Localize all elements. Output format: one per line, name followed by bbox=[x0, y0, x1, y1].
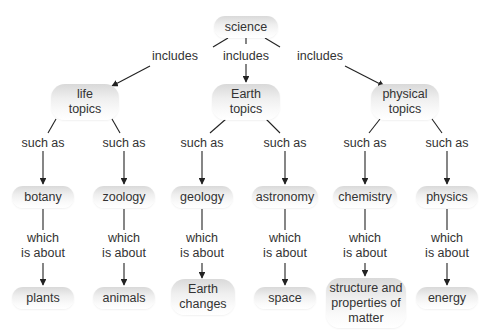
connector-line bbox=[213, 38, 228, 47]
concept-node-physics[interactable]: physics bbox=[416, 186, 478, 208]
link-label-life-to-botany: such as bbox=[20, 136, 65, 151]
connector-line bbox=[345, 66, 384, 86]
concept-node-science[interactable]: science bbox=[214, 16, 278, 38]
concept-node-botany[interactable]: botany bbox=[12, 186, 74, 208]
link-label-zoology-to-animals: which is about bbox=[101, 231, 147, 261]
connector-line bbox=[48, 119, 56, 133]
link-label-earth-to-geology: such as bbox=[179, 136, 224, 151]
link-label-geology-to-earth-changes: which is about bbox=[179, 231, 225, 261]
link-label-earth-to-astronomy: such as bbox=[262, 136, 307, 151]
concept-node-plants[interactable]: plants bbox=[12, 287, 74, 309]
concept-node-earth[interactable]: Earth topics bbox=[212, 84, 280, 120]
link-label-physical-to-chemistry: such as bbox=[342, 136, 387, 151]
concept-node-animals[interactable]: animals bbox=[93, 287, 155, 309]
concept-node-zoology[interactable]: zoology bbox=[93, 186, 155, 208]
connector-line bbox=[112, 119, 120, 133]
link-label-astronomy-to-space: which is about bbox=[262, 231, 308, 261]
link-label-science-to-physical: includes bbox=[296, 49, 344, 64]
link-label-botany-to-plants: which is about bbox=[20, 231, 66, 261]
connector-line bbox=[266, 119, 280, 133]
connector-line bbox=[369, 119, 380, 133]
link-label-chemistry-to-matter: which is about bbox=[342, 231, 388, 261]
concept-node-life[interactable]: life topics bbox=[51, 84, 119, 120]
connector-line bbox=[432, 119, 442, 133]
concept-node-earth-changes[interactable]: Earth changes bbox=[171, 279, 235, 315]
link-label-physical-to-physics: such as bbox=[424, 136, 469, 151]
link-label-physics-to-energy: which is about bbox=[424, 231, 470, 261]
connector-line bbox=[210, 119, 226, 133]
concept-node-physical[interactable]: physical topics bbox=[371, 84, 439, 120]
concept-node-geology[interactable]: geology bbox=[171, 186, 233, 208]
connector-line bbox=[265, 38, 280, 47]
link-label-science-to-earth: includes bbox=[222, 49, 270, 64]
link-label-science-to-life: includes bbox=[151, 49, 199, 64]
link-label-life-to-zoology: such as bbox=[101, 136, 146, 151]
concept-map: sciencelife topicsEarth topicsphysical t… bbox=[0, 0, 493, 334]
concept-node-astronomy[interactable]: astronomy bbox=[252, 186, 318, 208]
concept-node-matter[interactable]: structure and properties of matter bbox=[326, 278, 406, 328]
concept-node-space[interactable]: space bbox=[254, 287, 316, 309]
concept-node-energy[interactable]: energy bbox=[416, 287, 478, 309]
concept-node-chemistry[interactable]: chemistry bbox=[333, 186, 397, 208]
connector-line bbox=[112, 66, 150, 86]
